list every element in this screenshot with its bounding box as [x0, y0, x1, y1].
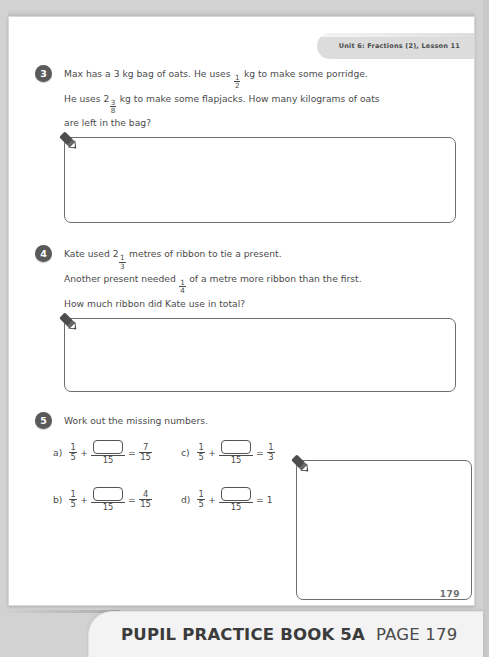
equation-a: a)15+15=715 [53, 440, 181, 465]
question-text-run: of a metre more ribbon than the first. [186, 273, 361, 284]
fraction-denominator: 5 [69, 452, 77, 462]
missing-number-input[interactable] [93, 487, 123, 501]
fraction-denominator: 4 [179, 286, 186, 294]
equation-c: c)15+15=13 [181, 440, 309, 465]
fraction-denominator: 15 [219, 455, 253, 465]
missing-number-input[interactable] [93, 440, 123, 454]
plus-sign: + [80, 494, 88, 505]
question-3-answer-area [64, 137, 456, 223]
question-line: How much ribbon did Kate use in total? [64, 295, 456, 313]
fraction-denominator: 15 [139, 452, 153, 462]
fraction-numerator: 1 [119, 254, 126, 261]
question-4-answer-box[interactable] [64, 318, 456, 392]
question-3-answer-box[interactable] [64, 137, 456, 223]
question-text-run: Max has a 3 kg bag of oats. He uses [64, 68, 233, 79]
question-4-text: Kate used 213 metres of ribbon to tie a … [64, 245, 456, 312]
equation-label: b) [53, 494, 69, 505]
worksheet-page: Unit 6: Fractions (2), Lesson 11 3 Max h… [8, 16, 475, 606]
fraction-numerator: 7 [141, 443, 149, 452]
banner-book-title: PUPIL PRACTICE BOOK 5A [121, 625, 365, 644]
fraction-denominator: 15 [91, 502, 125, 512]
question-3-number: 3 [35, 65, 52, 82]
question-line: are left in the bag? [64, 114, 456, 132]
question-4-number: 4 [35, 245, 52, 262]
equals-sign: = [256, 447, 264, 458]
question-text-run: Another present needed [64, 273, 179, 284]
question-text-run: He uses 2 [64, 93, 109, 104]
fraction-numerator: 3 [110, 99, 117, 106]
inline-fraction: 13 [267, 443, 275, 462]
equals-sign: = [128, 447, 136, 458]
fraction-denominator: 15 [219, 502, 253, 512]
fraction-numerator: 1 [69, 490, 77, 499]
question-text-run: kg to make some flapjacks. How many kilo… [117, 93, 380, 104]
inline-fraction: 715 [139, 443, 153, 462]
fraction-numerator: 1 [234, 74, 241, 81]
inline-fraction: 12 [234, 74, 241, 90]
fraction-numerator: 1 [197, 443, 205, 452]
fraction-numerator: 1 [267, 443, 275, 452]
fraction-numerator: 1 [69, 443, 77, 452]
equation-b: b)15+15=415 [53, 487, 181, 512]
fraction-numerator: 4 [141, 490, 149, 499]
question-5-answer-box[interactable] [296, 460, 472, 600]
equation-label: a) [53, 447, 69, 458]
inline-fraction: 14 [179, 279, 186, 295]
missing-number-input[interactable] [221, 440, 251, 454]
fraction-denominator: 3 [119, 262, 126, 270]
missing-number-fraction: 15 [219, 487, 253, 512]
missing-number-input[interactable] [221, 487, 251, 501]
question-text-run: are left in the bag? [64, 117, 151, 128]
equals-sign: = [128, 494, 136, 505]
question-text-run: Work out the missing numbers. [64, 415, 208, 426]
question-5-number: 5 [35, 412, 52, 429]
question-4-answer-area [64, 318, 456, 392]
question-text-run: Kate used 2 [64, 248, 119, 259]
question-text-run: metres of ribbon to tie a present. [126, 248, 281, 259]
question-text-run: How much ribbon did Kate use in total? [64, 298, 245, 309]
question-3: 3 Max has a 3 kg bag of oats. He uses 12… [35, 65, 456, 223]
plus-sign: + [208, 447, 216, 458]
question-5-answer-area [296, 460, 472, 600]
question-4: 4 Kate used 213 metres of ribbon to tie … [35, 245, 456, 391]
inline-fraction: 38 [110, 99, 117, 115]
fraction-denominator: 15 [139, 499, 153, 509]
equals-sign: = [256, 494, 264, 505]
question-line: He uses 238 kg to make some flapjacks. H… [64, 90, 456, 115]
unit-header-label: Unit 6: Fractions (2), Lesson 11 [339, 42, 460, 50]
fraction-denominator: 5 [197, 452, 205, 462]
question-line: Max has a 3 kg bag of oats. He uses 12 k… [64, 65, 456, 90]
equation-label: d) [181, 494, 197, 505]
banner-text: PUPIL PRACTICE BOOK 5A PAGE 179 [121, 625, 457, 644]
inline-fraction: 15 [197, 490, 205, 509]
inline-fraction: 415 [139, 490, 153, 509]
fraction-denominator: 5 [197, 499, 205, 509]
fraction-numerator: 1 [197, 490, 205, 499]
inline-fraction: 13 [119, 254, 126, 270]
fraction-denominator: 2 [234, 81, 241, 89]
missing-number-fraction: 15 [91, 440, 125, 465]
fraction-denominator: 15 [91, 455, 125, 465]
equation-d: d)15+15=1 [181, 487, 309, 512]
fraction-numerator: 1 [179, 279, 186, 286]
inline-fraction: 15 [69, 490, 77, 509]
missing-number-fraction: 15 [91, 487, 125, 512]
question-3-text: Max has a 3 kg bag of oats. He uses 12 k… [64, 65, 456, 132]
plus-sign: + [80, 447, 88, 458]
banner-page-label: PAGE 179 [376, 625, 457, 644]
missing-number-fraction: 15 [219, 440, 253, 465]
equation-label: c) [181, 447, 197, 458]
plus-sign: + [208, 494, 216, 505]
page-number: 179 [440, 589, 460, 599]
question-text-run: kg to make some porridge. [241, 68, 368, 79]
question-5-text: Work out the missing numbers. [64, 412, 456, 430]
fraction-denominator: 5 [69, 499, 77, 509]
fraction-denominator: 3 [267, 452, 275, 462]
question-line: Another present needed 14 of a metre mor… [64, 270, 456, 295]
inline-fraction: 15 [197, 443, 205, 462]
unit-header-tab: Unit 6: Fractions (2), Lesson 11 [317, 33, 474, 59]
question-line: Kate used 213 metres of ribbon to tie a … [64, 245, 456, 270]
fraction-denominator: 8 [110, 106, 117, 114]
inline-fraction: 15 [69, 443, 77, 462]
equation-result-whole: 1 [267, 494, 273, 505]
